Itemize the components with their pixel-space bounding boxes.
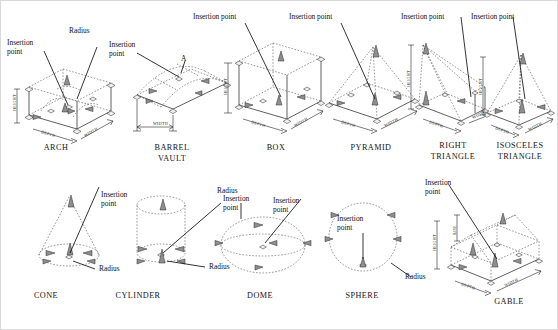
callout-pyramid-insertion-point: Insertion point <box>289 13 332 22</box>
dim-label-width: WIDTH <box>383 117 399 128</box>
grip-markers <box>43 195 95 264</box>
dim-label-width: WIDTH <box>503 277 519 288</box>
figure-isosceles-triangle: HEIGHT DEPTH WIDTH <box>479 29 558 141</box>
caption-sphere: SPHERE <box>331 291 393 302</box>
callout-box-insertion-point: Insertion point <box>193 13 236 22</box>
dim-label-depth: DEPTH <box>251 119 266 128</box>
callout-righttriangle-insertion-point: Insertion point <box>401 13 444 22</box>
caption-barrel-vault: BARREL VAULT <box>137 143 207 164</box>
figure-box: HEIGHT DEPTH WIDTH <box>223 29 333 141</box>
dim-label-width: WIDTH <box>83 126 98 138</box>
caption-isosceles-triangle: ISOSCELES TRIANGLE <box>485 141 555 162</box>
dim-label-depth: DEPTH <box>341 119 356 128</box>
callout-barrelvault-a: A <box>181 55 186 64</box>
dim-label-height: HEIGHT <box>432 234 437 251</box>
caption-cylinder: CYLINDER <box>101 291 175 302</box>
grip-markers <box>325 45 419 124</box>
dim-label-width: WIDTH <box>293 116 308 128</box>
figure-gable: HEIGHT RISE DEPTH WIDTH <box>427 193 553 309</box>
caption-cone: CONE <box>17 291 75 302</box>
caption-pyramid: PYRAMID <box>339 143 403 154</box>
dim-label-width: WIDTH <box>527 121 543 132</box>
dim-label-height: HEIGHT <box>406 70 411 87</box>
callout-isoscelestriangle-insertion-point: Insertion point <box>471 13 514 22</box>
grip-markers <box>133 77 231 114</box>
grip-markers <box>25 75 115 134</box>
dim-label-height: HEIGHT <box>223 78 228 95</box>
callout-gable-insertion-point: Insertion point <box>425 179 475 196</box>
caption-gable: GABLE <box>481 297 537 308</box>
callout-sphere-insertion-point: Insertion point <box>337 215 383 232</box>
callout-arch-radius: Radius <box>69 27 90 36</box>
dim-label-width: WIDTH <box>153 121 168 126</box>
diagram-sheet: HEIGHT DEPTH WIDTH Insertion point Radiu… <box>0 0 558 330</box>
dim-label-depth: DEPTH <box>461 281 476 290</box>
dim-label-height: HEIGHT <box>478 78 483 95</box>
dim-label-depth: DEPTH <box>429 119 444 128</box>
dim-label-depth: DEPTH <box>41 129 56 138</box>
grip-markers <box>483 53 554 129</box>
caption-box: BOX <box>249 143 303 154</box>
callout-dome-radius: Radius <box>217 187 238 196</box>
dim-label-height: HEIGHT <box>12 94 17 111</box>
caption-dome: DOME <box>229 291 291 302</box>
grip-markers <box>215 222 311 270</box>
caption-right-triangle: RIGHT TRIANGLE <box>419 141 487 162</box>
callout-barrelvault-insertion-point: Insertion point <box>109 41 161 58</box>
dim-label-depth: DEPTH <box>495 125 510 135</box>
grip-markers <box>137 199 185 264</box>
callout-arch-insertion-point: Insertion point <box>7 39 61 56</box>
callout-sphere-radius: Radius <box>405 273 426 282</box>
figure-sphere <box>313 193 413 289</box>
dim-label-rise: RISE <box>452 225 457 235</box>
caption-arch: ARCH <box>23 143 89 154</box>
figure-cylinder <box>117 191 213 281</box>
